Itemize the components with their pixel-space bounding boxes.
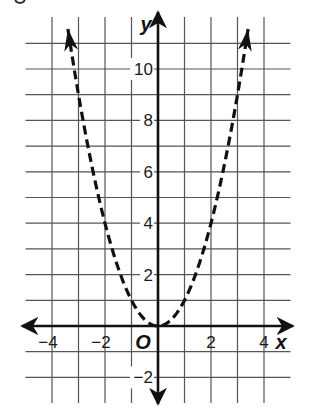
origin-label: O	[135, 331, 151, 353]
x-tick-label: −4	[38, 333, 57, 352]
x-tick-label: −2	[91, 333, 110, 352]
y-tick-label: 4	[144, 214, 153, 233]
axes	[22, 12, 293, 404]
parabola-graph: −4−224−2246810xyO	[0, 0, 316, 415]
y-tick-label: −2	[134, 368, 153, 387]
y-tick-label: 10	[134, 60, 153, 79]
y-tick-label: 6	[144, 163, 153, 182]
y-axis-label: y	[139, 13, 152, 35]
x-tick-label: 2	[206, 333, 215, 352]
x-tick-label: 4	[259, 333, 268, 352]
y-tick-label: 2	[144, 266, 153, 285]
x-axis-label: x	[274, 331, 287, 353]
y-tick-label: 8	[144, 111, 153, 130]
